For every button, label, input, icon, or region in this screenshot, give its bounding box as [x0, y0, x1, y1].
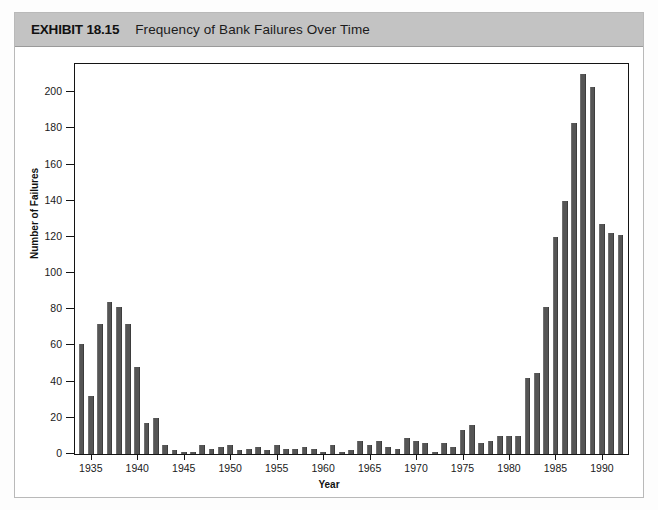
x-tick-label-1975: 1975: [451, 462, 474, 474]
exhibit-number: EXHIBIT 18.15: [31, 22, 119, 37]
bar-1939: [125, 324, 131, 454]
y-tick-80: [66, 308, 75, 309]
x-tick-label-1955: 1955: [265, 462, 288, 474]
y-tick-label-20: 20: [50, 411, 62, 423]
x-tick-1945: [184, 454, 185, 460]
bar-1972: [432, 452, 438, 454]
x-tick-1980: [509, 454, 510, 460]
x-tick-label-1940: 1940: [126, 462, 149, 474]
bar-1987: [571, 123, 577, 454]
bar-1970: [413, 441, 419, 454]
y-tick-100: [66, 272, 75, 273]
bar-1937: [107, 302, 113, 454]
y-tick-40: [66, 381, 75, 382]
y-tick-label-180: 180: [44, 121, 62, 133]
x-tick-label-1970: 1970: [404, 462, 427, 474]
bar-1991: [608, 233, 614, 454]
bar-1988: [580, 74, 586, 454]
exhibit-header: EXHIBIT 18.15 Frequency of Bank Failures…: [15, 13, 643, 47]
bar-1978: [488, 441, 494, 454]
x-tick-1955: [277, 454, 278, 460]
x-tick-label-1960: 1960: [311, 462, 334, 474]
y-tick-label-60: 60: [50, 338, 62, 350]
y-tick-60: [66, 344, 75, 345]
bar-1979: [497, 436, 503, 454]
y-tick-120: [66, 236, 75, 237]
y-tick-20: [66, 417, 75, 418]
y-tick-label-80: 80: [50, 302, 62, 314]
x-tick-label-1950: 1950: [219, 462, 242, 474]
bar-1956: [283, 449, 289, 454]
bar-1973: [441, 443, 447, 454]
bar-1948: [209, 449, 215, 454]
bar-1940: [134, 367, 140, 454]
x-tick-1960: [323, 454, 324, 460]
bar-1954: [264, 450, 270, 454]
bar-1964: [357, 441, 363, 454]
chart-area: Number of Failures 020406080100120140160…: [15, 47, 643, 497]
bar-1953: [255, 447, 261, 454]
x-tick-1950: [230, 454, 231, 460]
x-tick-1970: [416, 454, 417, 460]
plot-frame: 0204060801001201401601802001935194019451…: [74, 63, 629, 455]
bar-1985: [553, 237, 559, 454]
x-tick-1975: [463, 454, 464, 460]
bar-1955: [274, 445, 280, 454]
bar-1969: [404, 438, 410, 454]
bar-1965: [367, 445, 373, 454]
bar-1936: [97, 324, 103, 454]
x-tick-label-1935: 1935: [79, 462, 102, 474]
bar-1961: [330, 445, 336, 454]
bar-1963: [348, 450, 354, 454]
exhibit-title: Frequency of Bank Failures Over Time: [135, 22, 370, 37]
y-tick-160: [66, 164, 75, 165]
bar-1992: [618, 235, 624, 454]
bar-1942: [153, 418, 159, 454]
bar-1967: [385, 447, 391, 454]
x-tick-1935: [91, 454, 92, 460]
x-tick-label-1990: 1990: [590, 462, 613, 474]
y-tick-180: [66, 127, 75, 128]
bar-1982: [525, 378, 531, 454]
bar-1980: [506, 436, 512, 454]
x-tick-1965: [370, 454, 371, 460]
plot-inner: 0204060801001201401601802001935194019451…: [75, 64, 628, 454]
x-tick-label-1985: 1985: [544, 462, 567, 474]
bar-1966: [376, 441, 382, 454]
x-axis-title: Year: [15, 479, 643, 490]
y-tick-140: [66, 200, 75, 201]
bar-1974: [450, 447, 456, 454]
x-tick-1940: [137, 454, 138, 460]
x-tick-label-1980: 1980: [497, 462, 520, 474]
bar-1935: [88, 396, 94, 454]
bar-1938: [116, 307, 122, 454]
bar-1968: [395, 449, 401, 454]
y-tick-label-0: 0: [56, 447, 62, 459]
bar-1947: [199, 445, 205, 454]
bar-1983: [534, 373, 540, 454]
x-tick-label-1945: 1945: [172, 462, 195, 474]
y-tick-label-160: 160: [44, 158, 62, 170]
bar-1941: [144, 423, 150, 454]
bar-1975: [460, 430, 466, 454]
bar-1971: [422, 443, 428, 454]
bar-1986: [562, 201, 568, 454]
x-tick-label-1965: 1965: [358, 462, 381, 474]
bar-1952: [246, 449, 252, 454]
y-tick-label-200: 200: [44, 85, 62, 97]
x-tick-1985: [555, 454, 556, 460]
bar-1989: [590, 87, 596, 454]
y-tick-label-140: 140: [44, 194, 62, 206]
y-tick-label-120: 120: [44, 230, 62, 242]
y-tick-label-40: 40: [50, 375, 62, 387]
bar-1984: [543, 307, 549, 454]
bar-1959: [311, 449, 317, 454]
page-root: EXHIBIT 18.15 Frequency of Bank Failures…: [0, 0, 658, 510]
bar-1957: [292, 449, 298, 454]
y-tick-0: [66, 453, 75, 454]
bar-1949: [218, 447, 224, 454]
bar-1951: [237, 450, 243, 454]
bar-1950: [227, 445, 233, 454]
bar-1946: [190, 452, 196, 454]
bar-1958: [302, 447, 308, 454]
